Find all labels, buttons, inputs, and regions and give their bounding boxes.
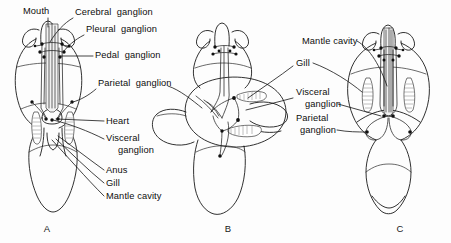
label-visceral-ganglion-a: Visceral <box>106 133 140 143</box>
panel-letter-c: C <box>397 223 404 234</box>
ganglion-dot <box>34 45 37 48</box>
ganglion-dot <box>402 49 405 52</box>
label-pleural-ganglion: Pleural ganglion <box>86 24 157 34</box>
label-pedal-ganglion: Pedal ganglion <box>95 50 161 60</box>
label-parietal-ganglion-c-line2: ganglion <box>300 125 336 135</box>
ganglion-dot <box>40 42 43 45</box>
ganglion-dot <box>397 54 400 57</box>
ganglion-dot <box>42 55 45 58</box>
ganglion-dot <box>211 52 214 55</box>
ganglion-dot <box>220 129 223 132</box>
ganglion-dot <box>379 46 382 49</box>
panel-letter-layer: A B C <box>44 223 404 234</box>
ganglion-dot <box>408 130 412 134</box>
label-mantle-cavity-a: Mantle cavity <box>106 191 162 201</box>
ganglion-dot <box>377 54 380 57</box>
label-parietal-ganglion-c: Parietal <box>296 113 328 123</box>
ganglion-dot <box>394 46 397 49</box>
gill-shape-b-lower <box>228 125 261 137</box>
ganglion-dot <box>218 50 221 53</box>
ganglion-dot <box>383 59 386 62</box>
panel-b-diagram <box>152 23 287 214</box>
label-anus: Anus <box>106 165 128 175</box>
gill-shape-c-left <box>362 78 373 112</box>
label-gill-c: Gill <box>296 58 310 68</box>
ganglion-dot <box>229 50 232 53</box>
panel-letter-b: B <box>225 223 231 234</box>
anatomical-figure: Mouth Cerebral ganglion Pleural ganglion… <box>0 0 451 243</box>
ganglion-dot <box>391 114 395 118</box>
ganglion-dot <box>232 96 236 100</box>
ganglion-dot <box>373 49 376 52</box>
label-visceral-ganglion-c: Visceral <box>296 87 330 97</box>
label-visceral-ganglion-a-line2: ganglion <box>118 145 154 155</box>
ganglion-dot <box>60 42 63 45</box>
label-heart: Heart <box>106 116 130 126</box>
ganglion-dot <box>392 59 395 62</box>
panel-a-diagram <box>15 18 104 212</box>
ganglion-dot <box>382 114 386 118</box>
ganglion-dot <box>234 52 237 55</box>
gill-shape-b-upper <box>237 91 266 102</box>
label-cerebral-ganglion: Cerebral ganglion <box>75 7 153 17</box>
label-mouth: Mouth <box>23 6 49 16</box>
panel-c-diagram <box>313 25 429 214</box>
ganglion-dot <box>232 45 235 48</box>
ganglion-dot <box>236 118 240 122</box>
gill-shape-c-right <box>404 78 415 112</box>
ganglion-dot <box>218 154 222 158</box>
label-mantle-cavity-c: Mantle cavity <box>302 36 358 46</box>
diagram-canvas: Mouth Cerebral ganglion Pleural ganglion… <box>0 0 451 243</box>
panel-letter-a: A <box>44 223 51 234</box>
label-gill-a: Gill <box>106 178 120 188</box>
ganglion-dot <box>213 45 216 48</box>
gill-shape-a-right <box>65 112 75 144</box>
ganglion-dot <box>38 50 41 53</box>
gill-shape-a-left <box>32 112 42 144</box>
label-visceral-ganglion-c-line2: ganglion <box>305 99 341 109</box>
label-parietal-ganglion-a: Parietal ganglion <box>98 78 172 88</box>
